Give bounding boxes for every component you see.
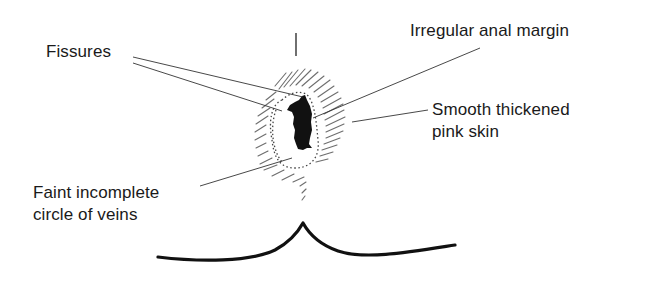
- label-fissures: Fissures: [46, 41, 111, 63]
- label-irregular-anal-margin: Irregular anal margin: [410, 20, 569, 42]
- buttocks-outline: [158, 223, 455, 260]
- label-smooth-thickened-skin: Smooth thickened pink skin: [432, 99, 570, 143]
- label-smooth-line1: Smooth thickened: [432, 99, 570, 121]
- label-veins-line1: Faint incomplete: [33, 182, 159, 204]
- label-smooth-line2: pink skin: [432, 121, 570, 143]
- label-veins-line2: circle of veins: [33, 204, 159, 226]
- label-faint-circle-of-veins: Faint incomplete circle of veins: [33, 182, 159, 226]
- leader-smooth-skin: [352, 110, 428, 122]
- anal-opening: [287, 95, 312, 150]
- leader-fissures-upper: [133, 57, 303, 97]
- leader-faint-veins: [200, 158, 292, 186]
